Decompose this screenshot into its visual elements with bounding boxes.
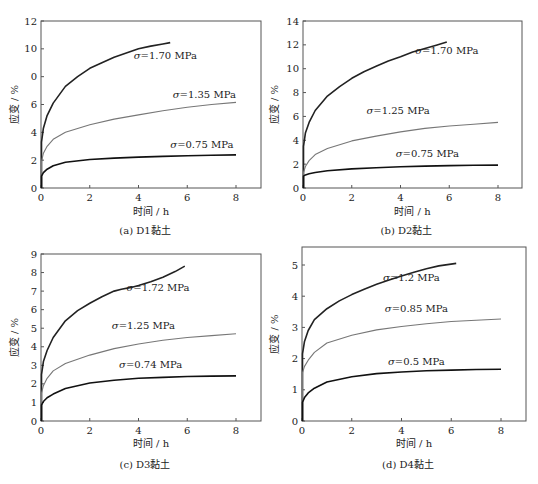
y-tick-label: 6	[31, 304, 37, 315]
x-tick-label: 0	[38, 192, 44, 203]
x-tick-label: 4	[397, 192, 403, 203]
x-tick-label: 2	[349, 192, 355, 203]
y-tick-label: 5	[31, 323, 37, 334]
y-tick-label: 6	[31, 99, 37, 110]
x-tick-label: 2	[87, 192, 93, 203]
series-label: σ=1.2 MPa	[383, 272, 440, 283]
subplot-caption: (b) D2黏土	[381, 224, 433, 236]
y-tick-label: 3	[292, 322, 298, 333]
x-tick-label: 0	[299, 425, 305, 436]
x-tick-label: 6	[184, 425, 190, 436]
series-label: σ=1.35 MPa	[173, 89, 236, 100]
series-line	[42, 43, 171, 188]
figure-canvas: 02468024601012σ=1.70 MPaσ=1.35 MPaσ=0.75…	[0, 0, 538, 484]
subplot-caption: (a) D1黏土	[119, 224, 170, 236]
subplot-b: 0246802468101214σ=1.70 MPaσ=1.25 MPaσ=0.…	[268, 16, 522, 237]
subplot-c: 024680123456789σ=1.72 MPaσ=1.25 MPaσ=0.7…	[8, 249, 261, 471]
y-axis-label: 应变 / %	[8, 318, 20, 357]
series-label: σ=0.75 MPa	[396, 148, 459, 159]
y-axis-label: 应变 / %	[268, 314, 280, 353]
x-tick-label: 8	[495, 192, 501, 203]
series-label: σ=1.25 MPa	[366, 105, 429, 116]
y-tick-label: 5	[292, 260, 298, 271]
series-label: σ=0.5 MPa	[388, 356, 445, 367]
y-tick-label: 2	[31, 378, 37, 389]
y-tick-label: 7	[31, 286, 37, 297]
y-tick-label: 9	[31, 249, 37, 260]
x-tick-label: 0	[38, 425, 44, 436]
x-tick-label: 6	[448, 425, 454, 436]
series-label: σ=1.72 MPa	[126, 282, 189, 293]
y-tick-label: 12	[24, 16, 37, 27]
series-line	[303, 263, 457, 421]
y-tick-label: 2	[293, 159, 299, 170]
x-tick-label: 4	[135, 192, 141, 203]
y-tick-label: 10	[24, 43, 37, 54]
y-tick-label: 2	[31, 155, 37, 166]
plot-frame	[41, 254, 261, 421]
series-line	[42, 376, 237, 421]
series-line	[304, 165, 499, 188]
y-tick-label: 14	[286, 16, 299, 27]
subplot-caption: (c) D3黏土	[120, 458, 171, 470]
subplot-d: 02468012345σ=1.2 MPaσ=0.85 MPaσ=0.5 MPa时…	[268, 247, 526, 470]
y-tick-label: 1	[31, 397, 37, 408]
x-tick-label: 2	[87, 425, 93, 436]
series-line	[42, 334, 237, 421]
y-tick-label: 0	[31, 183, 37, 194]
x-tick-label: 8	[233, 425, 239, 436]
series-label: σ=0.75 MPa	[170, 139, 233, 150]
x-tick-label: 0	[300, 192, 306, 203]
series-label: σ=0.85 MPa	[385, 303, 448, 314]
x-tick-label: 8	[233, 192, 239, 203]
series-label: σ=1.70 MPa	[134, 50, 197, 61]
x-tick-label: 4	[135, 425, 141, 436]
y-tick-label: 1	[292, 384, 298, 395]
y-tick-label: 10	[286, 63, 299, 74]
y-tick-label: 4	[292, 291, 298, 302]
y-tick-label: 8	[293, 87, 299, 98]
y-tick-label: 8	[31, 267, 37, 278]
y-axis-label: 应变 / %	[268, 85, 280, 124]
x-axis-label: 时间 / h	[396, 437, 433, 449]
y-tick-label: 3	[31, 360, 37, 371]
x-axis-label: 时间 / h	[133, 437, 170, 449]
x-tick-label: 2	[349, 425, 355, 436]
y-tick-label: 4	[293, 135, 299, 146]
series-line	[303, 369, 502, 421]
x-tick-label: 6	[446, 192, 452, 203]
x-tick-label: 6	[184, 192, 190, 203]
series-label: σ=1.70 MPa	[415, 45, 478, 56]
y-tick-label: 4	[31, 127, 37, 138]
y-tick-label: 0	[292, 416, 298, 427]
y-tick-label: 6	[293, 111, 299, 122]
subplot-a: 02468024601012σ=1.70 MPaσ=1.35 MPaσ=0.75…	[8, 16, 261, 237]
subplot-caption: (d) D4黏土	[382, 458, 434, 470]
y-tick-label: 0	[31, 416, 37, 427]
x-axis-label: 时间 / h	[394, 205, 431, 217]
y-tick-label: 12	[286, 39, 299, 50]
series-line	[42, 155, 237, 188]
x-tick-label: 8	[498, 425, 504, 436]
y-tick-label: 2	[292, 353, 298, 364]
x-axis-label: 时间 / h	[133, 205, 170, 217]
x-tick-label: 4	[398, 425, 404, 436]
y-tick-label: 0	[31, 71, 37, 82]
y-tick-label: 0	[293, 183, 299, 194]
series-label: σ=0.74 MPa	[119, 359, 182, 370]
y-axis-label: 应变 / %	[8, 85, 20, 124]
y-tick-label: 4	[31, 341, 37, 352]
series-label: σ=1.25 MPa	[112, 320, 175, 331]
